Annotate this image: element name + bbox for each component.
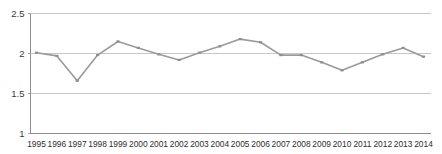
data-point-marker: [422, 56, 425, 58]
x-tick-label: 2009: [312, 139, 331, 149]
line-chart: 11.522.5 1995199619971998199920002001200…: [0, 0, 442, 154]
y-tick-label: 2.5: [11, 8, 24, 19]
data-point-marker: [239, 38, 242, 40]
data-point-marker: [76, 80, 79, 82]
chart-canvas: 11.522.5 1995199619971998199920002001200…: [0, 0, 442, 154]
data-point-marker: [157, 53, 160, 55]
x-tick-label: 2007: [272, 139, 291, 149]
data-point-marker: [55, 55, 58, 57]
x-tick-label: 2012: [373, 139, 392, 149]
x-tick-label: 2011: [353, 139, 371, 149]
data-point-marker: [116, 40, 119, 42]
x-tick-label: 2005: [231, 139, 250, 149]
x-tick-label: 1999: [109, 139, 128, 149]
y-tick-label: 1.5: [11, 88, 24, 99]
x-tick-label: 2013: [394, 139, 413, 149]
x-tick-label: 2006: [251, 139, 270, 149]
data-point-marker: [320, 61, 323, 63]
x-tick-label: 2014: [414, 139, 433, 149]
x-tick-label: 1997: [68, 139, 87, 149]
x-tick-labels: 1995199619971998199920002001200220032004…: [27, 139, 433, 149]
data-point-marker: [218, 45, 221, 47]
x-tick-label: 1995: [27, 139, 46, 149]
x-tick-label: 2001: [149, 139, 168, 149]
y-tick-label: 2: [19, 48, 24, 59]
data-point-marker: [35, 52, 38, 54]
data-point-marker: [279, 54, 282, 56]
y-axis: [28, 14, 31, 134]
series-line-1: [37, 39, 424, 81]
data-series: [37, 39, 424, 81]
data-point-marker: [361, 61, 364, 63]
x-tick-label: 2002: [170, 139, 189, 149]
x-tick-label: 2008: [292, 139, 311, 149]
data-point-marker: [402, 47, 405, 49]
x-tick-label: 2004: [210, 139, 229, 149]
x-tick-label: 2010: [333, 139, 352, 149]
x-tick-label: 1996: [48, 139, 67, 149]
data-point-marker: [381, 53, 384, 55]
data-point-marker: [96, 54, 99, 56]
x-tick-label: 1998: [88, 139, 107, 149]
data-point-marker: [137, 47, 140, 49]
data-point-marker: [177, 59, 180, 61]
data-point-marker: [259, 41, 262, 43]
gridlines: [31, 14, 431, 134]
y-tick-label: 1: [19, 128, 24, 139]
y-tick-labels: 11.522.5: [11, 8, 24, 139]
data-point-marker: [198, 52, 201, 54]
data-point-marker: [300, 54, 303, 56]
x-tick-label: 2000: [129, 139, 148, 149]
data-point-marker: [340, 69, 343, 71]
x-tick-label: 2003: [190, 139, 209, 149]
